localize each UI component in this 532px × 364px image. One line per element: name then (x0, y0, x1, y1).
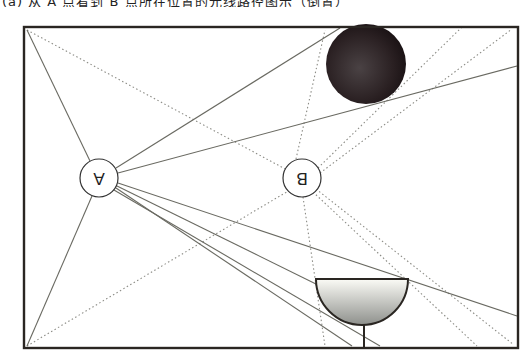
point-a-label: A (93, 169, 105, 188)
solid-line-a-to-bowl (117, 186, 320, 286)
point-b-label: B (296, 169, 307, 188)
point-b: B (283, 159, 321, 197)
solid-line-a-to-ball-top (116, 28, 340, 168)
dotted-line-b-down-right-1 (313, 192, 477, 346)
dark-ball (326, 24, 406, 104)
solid-line-a-to-right-wall (118, 66, 517, 173)
solid-line-a-to-top-corner (27, 30, 90, 161)
point-a: A (80, 159, 118, 197)
solid-line-a-to-bottom-corner (27, 196, 92, 346)
ray-diagram: A B (0, 0, 532, 364)
bowl-body (316, 279, 408, 325)
dotted-line-b-down (303, 197, 325, 346)
dotted-line-bottom-corner-to-b (27, 190, 290, 346)
dotted-line-b-up (296, 30, 325, 159)
bowl (316, 279, 408, 348)
solid-line-a-to-floor-2 (114, 190, 380, 346)
dotted-line-corner-to-b (27, 30, 302, 178)
